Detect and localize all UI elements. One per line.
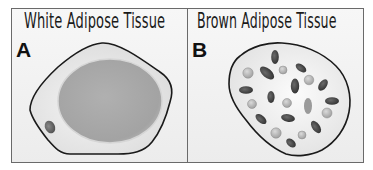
small-lipid-droplet	[271, 128, 281, 138]
small-lipid-droplet	[279, 66, 287, 74]
panel-a-label: A	[16, 38, 31, 62]
lipid-droplet-large	[58, 59, 162, 143]
mitochondrion	[239, 86, 253, 94]
mitochondrion	[267, 91, 274, 103]
small-lipid-droplet	[322, 108, 332, 118]
small-lipid-droplet	[243, 68, 253, 78]
adipose-tissue-diagram: White Adipose Tissue A Brown Adipose Tis…	[0, 0, 373, 170]
panel-b-label: B	[192, 38, 207, 62]
mitochondrion	[291, 79, 299, 94]
mitochondrion	[271, 50, 279, 64]
small-lipid-droplet	[283, 99, 292, 108]
small-lipid-droplet	[248, 100, 257, 109]
small-lipid-droplet	[298, 131, 306, 139]
mitochondrion	[304, 98, 312, 114]
panel-b-title: Brown Adipose Tissue	[197, 9, 337, 37]
mitochondrion	[325, 97, 339, 105]
panel-a-title: White Adipose Tissue	[24, 9, 165, 37]
small-lipid-droplet	[304, 75, 314, 85]
